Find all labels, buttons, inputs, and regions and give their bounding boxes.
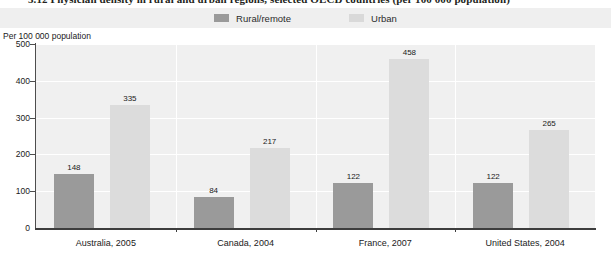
legend-label-urban: Urban (371, 13, 397, 24)
y-axis-tick (30, 191, 36, 192)
y-axis-tick (30, 81, 36, 82)
y-axis-tick (30, 44, 36, 45)
y-axis-tick-label: 0 (4, 223, 30, 233)
legend-item-rural-remote: Rural/remote (214, 13, 291, 24)
y-axis-line (35, 43, 36, 229)
legend-item-urban: Urban (349, 13, 397, 24)
y-axis-tick-label: 300 (4, 113, 30, 123)
x-axis-category-label: France, 2007 (316, 238, 456, 248)
bar-value-label: 335 (110, 94, 150, 103)
y-axis-tick-label: 200 (4, 149, 30, 159)
y-axis-tick-label: 400 (4, 76, 30, 86)
bar-urban (110, 105, 150, 228)
plot-area (36, 44, 595, 228)
legend-label-rural-remote: Rural/remote (236, 13, 291, 24)
chart-title-clipped: 3.12 Physician density in rural and urba… (0, 0, 611, 8)
bar-value-label: 84 (194, 186, 234, 195)
y-axis-tick (30, 154, 36, 155)
x-axis-category-label: Australia, 2005 (36, 238, 176, 248)
bar-rural-remote (194, 197, 234, 228)
bar-value-label: 458 (389, 48, 429, 57)
bar-value-label: 122 (473, 172, 513, 181)
chart-title: 3.12 Physician density in rural and urba… (28, 0, 510, 5)
bar-value-label: 265 (529, 119, 569, 128)
bar-value-label: 122 (333, 172, 373, 181)
x-axis-tick (316, 228, 317, 232)
bar-rural-remote (333, 183, 373, 228)
bar-rural-remote (473, 183, 513, 228)
group-separator (316, 44, 317, 228)
group-separator (455, 44, 456, 228)
bar-value-label: 148 (54, 163, 94, 172)
bar-urban (250, 148, 290, 228)
x-axis-category-label: Canada, 2004 (176, 238, 316, 248)
bar-urban (529, 130, 569, 228)
bar-rural-remote (54, 174, 94, 228)
chart-legend: Rural/remote Urban (0, 8, 611, 28)
legend-swatch-icon-urban (349, 14, 364, 22)
y-axis-tick-label: 500 (4, 39, 30, 49)
bar-urban (389, 59, 429, 228)
y-axis-tick-labels: 0100200300400500 (0, 0, 30, 254)
y-axis-tick-label: 100 (4, 186, 30, 196)
legend-swatch-icon-rural-remote (214, 14, 229, 22)
group-separator (176, 44, 177, 228)
x-axis-tick (176, 228, 177, 232)
bar-value-label: 217 (250, 137, 290, 146)
chart-screenshot: 3.12 Physician density in rural and urba… (0, 0, 611, 254)
x-axis-tick (455, 228, 456, 232)
y-axis-tick (30, 118, 36, 119)
x-axis-category-label: United States, 2004 (455, 238, 595, 248)
